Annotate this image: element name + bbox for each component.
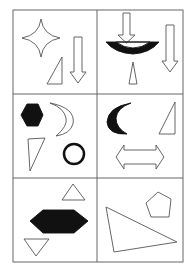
double-arrow-icon — [116, 145, 164, 169]
triangle-outline-icon — [28, 138, 45, 171]
four-point-star-icon — [22, 19, 60, 57]
cell-r3c2 — [106, 192, 177, 252]
cell-r3c1 — [24, 184, 88, 256]
cell-r2c1 — [21, 103, 84, 171]
pentagon-icon — [146, 192, 171, 217]
down-arrow-tall-icon — [162, 25, 178, 72]
right-triangle-icon — [47, 57, 62, 84]
down-arrow-icon — [70, 37, 86, 83]
triangle-down-icon — [24, 239, 49, 256]
black-crescent-icon — [107, 103, 131, 134]
narrow-triangle-icon — [129, 62, 137, 84]
large-triangle-icon — [106, 207, 177, 252]
black-hexagon-icon — [21, 104, 43, 126]
triangle-up-icon — [62, 184, 85, 200]
cell-r2c2 — [107, 102, 175, 169]
black-arc-bowl-icon — [106, 42, 159, 54]
cell-r1c1 — [22, 19, 86, 84]
ring-circle-icon — [64, 144, 84, 164]
puzzle-figure: 3x2 shape grid puzzle — [0, 0, 190, 271]
black-elongated-hexagon-icon — [30, 210, 88, 233]
cell-r1c2 — [106, 13, 178, 84]
crescent-outline-icon — [50, 103, 73, 136]
down-arrow-icon — [118, 13, 135, 43]
grid-canvas — [0, 0, 190, 271]
right-triangle-icon — [159, 102, 175, 134]
